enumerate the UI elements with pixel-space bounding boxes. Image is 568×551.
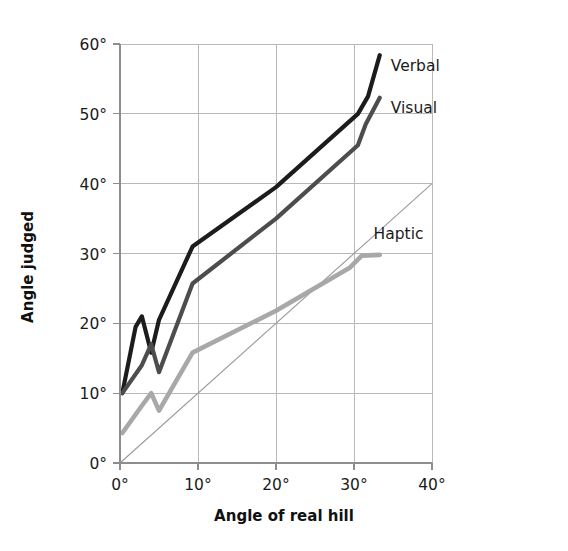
y-tick-label: 30° <box>80 246 107 264</box>
x-tick-label: 20° <box>262 476 289 494</box>
series-label-haptic: Haptic <box>374 225 424 243</box>
series-label-verbal: Verbal <box>391 57 440 75</box>
y-tick-label: 60° <box>80 36 107 54</box>
x-axis-title: Angle of real hill <box>214 507 354 525</box>
x-tick-label: 30° <box>340 476 367 494</box>
y-tick-label: 50° <box>80 106 107 124</box>
x-tick-label: 40° <box>418 476 445 494</box>
x-tick-label: 0° <box>111 476 129 494</box>
y-tick-label: 20° <box>80 315 107 333</box>
y-tick-label: 0° <box>89 455 107 473</box>
y-axis-title: Angle judged <box>19 211 37 323</box>
x-tick-label: 10° <box>184 476 211 494</box>
chart-container: 0°10°20°30°40° 0°10°20°30°40°50°60° Verb… <box>0 0 568 551</box>
y-tick-label: 40° <box>80 176 107 194</box>
angle-judgment-line-chart: 0°10°20°30°40° 0°10°20°30°40°50°60° Verb… <box>0 0 568 551</box>
series-label-visual: Visual <box>391 99 437 117</box>
y-tick-label: 10° <box>80 385 107 403</box>
chart-background <box>0 0 568 551</box>
